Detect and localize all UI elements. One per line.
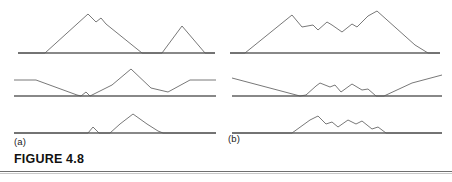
caption-divider-rule-secondary xyxy=(0,173,452,174)
waveform-panel-b2 xyxy=(232,75,442,96)
signal-trace-b1 xyxy=(230,11,440,53)
signal-trace-a2 xyxy=(14,69,216,96)
panel-label-b: (b) xyxy=(228,134,240,144)
signal-trace-a3 xyxy=(14,114,216,133)
signal-trace-b2 xyxy=(232,75,442,96)
waveform-plot-area xyxy=(0,0,452,150)
waveform-canvas xyxy=(0,0,452,150)
waveform-panel-a2 xyxy=(14,69,216,96)
figure-caption-title: FIGURE 4.8 xyxy=(14,152,84,166)
panel-label-a: (a) xyxy=(14,137,26,147)
waveform-panel-b3 xyxy=(232,116,442,133)
waveform-panel-a1 xyxy=(18,14,215,53)
figure-4-8: (a) (b) FIGURE 4.8 xyxy=(0,0,452,182)
waveform-panel-a3 xyxy=(14,114,216,133)
waveform-panel-b1 xyxy=(230,11,440,53)
signal-trace-b3 xyxy=(232,116,442,133)
signal-trace-a1 xyxy=(18,14,215,53)
caption-divider-rule xyxy=(0,171,452,172)
